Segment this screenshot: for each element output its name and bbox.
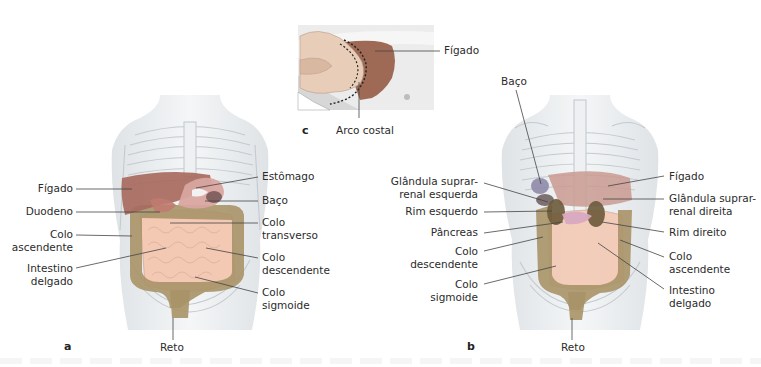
label-a-estomago: Estômago [262,170,314,183]
label-b-reto: Reto [561,341,585,354]
label-a-intestino-delgado: Intestino delgado [27,262,73,288]
label-line: delgado [669,297,715,310]
panel-letter-b: b [467,340,475,353]
label-line: descendente [410,258,478,271]
label-line: Colo [262,216,318,229]
label-line: renal esquerda [391,188,478,201]
label-c-figado: Fígado [444,44,479,57]
label-line: Colo [669,250,730,263]
rectum-a [170,290,190,318]
label-line: ascendente [669,263,730,276]
label-b-colo-descendente: Colo descendente [410,245,478,271]
label-b-glandula-suprarrenal-esquerda: Glândula suprar- renal esquerda [391,175,478,201]
label-a-colo-ascendente: Colo ascendente [12,228,73,254]
label-a-reto: Reto [160,341,184,354]
label-b-pancreas: Pâncreas [431,226,478,239]
label-line: Intestino [669,284,715,297]
anatomy-figure: Fígado Arco costal c Fígado Duodeno Colo… [0,0,761,367]
label-a-figado: Fígado [38,182,73,195]
label-b-rim-direito: Rim direito [669,226,726,239]
panel-b-illustration [484,90,664,340]
label-line: Glândula suprar- [669,192,756,205]
panel-letter-a: a [64,340,71,353]
label-line: descendente [262,264,330,277]
label-b-rim-esquerdo: Rim esquerdo [405,205,478,218]
label-a-colo-transverso: Colo transverso [262,216,318,242]
label-line: Colo [262,251,330,264]
label-c-arco-costal: Arco costal [336,124,394,137]
label-line: renal direita [669,205,756,218]
kidney-left-b [547,199,565,225]
label-b-colo-sigmoide: Colo sigmoide [430,278,478,304]
label-line: Colo [12,228,73,241]
label-line: Colo [430,278,478,291]
kidney-right-b [587,201,605,227]
label-a-duodeno: Duodeno [26,205,73,218]
label-line: Intestino [27,262,73,275]
label-b-figado: Fígado [669,170,704,183]
label-a-colo-descendente: Colo descendente [262,251,330,277]
label-a-baco: Baço [262,194,288,207]
label-line: sigmoide [430,291,478,304]
panel-letter-c: c [302,124,309,137]
cropped-caption-remnant [0,358,761,364]
illustration-canvas [0,0,761,367]
label-b-intestino-delgado: Intestino delgado [669,284,715,310]
label-line: transverso [262,229,318,242]
label-b-colo-ascendente: Colo ascendente [669,250,730,276]
label-line: sigmoide [262,299,310,312]
panel-a-illustration [76,95,268,340]
label-line: Glândula suprar- [391,175,478,188]
label-b-baco: Baço [501,75,527,88]
label-line: ascendente [12,241,73,254]
label-line: Colo [410,245,478,258]
label-a-colo-sigmoide: Colo sigmoide [262,286,310,312]
label-line: Colo [262,286,310,299]
label-line: delgado [27,275,73,288]
panel-c-illustration [298,25,440,118]
label-b-glandula-suprarrenal-direita: Glândula suprar- renal direita [669,192,756,218]
